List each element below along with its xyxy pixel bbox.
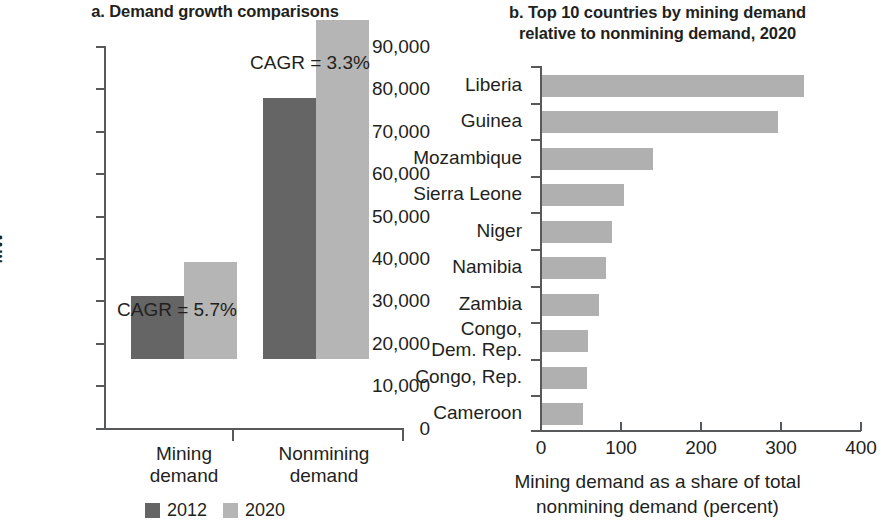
category-label-line: Sierra Leone: [413, 184, 522, 205]
panel-a-y-tick-label: 0: [338, 418, 430, 440]
panel-b-x-tick: [780, 422, 782, 431]
panel-a-demand-growth: a. Demand growth comparisons MW 0 10,000…: [0, 0, 430, 529]
hbar-zambia: [542, 294, 599, 316]
panel-a-y-axis-line: [104, 46, 106, 430]
category-label-zambia: Zambia: [459, 294, 522, 315]
panel-a-x-tick: [232, 430, 234, 441]
panel-a-y-tick: [96, 428, 105, 430]
panel-b-y-tick: [531, 395, 541, 397]
panel-b-x-tick: [540, 422, 542, 431]
category-label-line: Mining: [124, 443, 244, 465]
category-label-liberia: Liberia: [465, 75, 522, 96]
panel-b-x-axis-label-line: Mining demand as a share of total: [430, 470, 885, 495]
category-label-congo-dem-rep: Congo, Dem. Rep.: [431, 319, 522, 361]
category-label-congo-rep: Congo, Rep.: [415, 367, 522, 388]
hbar-cameroon: [542, 403, 583, 425]
category-label-line: Cameroon: [433, 403, 522, 424]
panel-a-y-tick: [96, 385, 105, 387]
hbar-mozambique: [542, 148, 653, 170]
panel-a-y-tick: [96, 173, 105, 175]
legend-label-2020: 2020: [245, 500, 285, 521]
panel-a-plot-area: MW 0 10,000 20,000 30,000 40,000 50,000 …: [0, 0, 430, 460]
panel-a-y-tick: [96, 216, 105, 218]
category-label-namibia: Namibia: [452, 257, 522, 278]
bar-nonmining-2012: [263, 98, 316, 359]
hbar-liberia: [542, 75, 804, 97]
panel-a-x-tick: [402, 430, 404, 441]
panel-b-y-tick: [531, 139, 541, 141]
panel-b-x-tick-label: 300: [765, 437, 797, 459]
hbar-guinea: [542, 111, 778, 133]
category-label-sierra-leone: Sierra Leone: [413, 184, 522, 205]
panel-b-y-tick: [531, 66, 541, 68]
panel-b-x-tick: [700, 422, 702, 431]
hbar-namibia: [542, 257, 606, 279]
hbar-sierra-leone: [542, 184, 624, 206]
panel-b-x-tick-label: 200: [685, 437, 717, 459]
panel-b-y-tick: [531, 103, 541, 105]
category-label-line: Dem. Rep.: [431, 340, 522, 361]
category-label-mining: Mining demand: [124, 443, 244, 488]
panel-b-x-axis-label: Mining demand as a share of total nonmin…: [430, 470, 885, 519]
hbar-congo-dem-rep: [542, 330, 588, 352]
hbar-niger: [542, 221, 612, 243]
legend-swatch-icon: [223, 503, 238, 518]
panel-b-x-tick: [620, 422, 622, 431]
legend-item-2020: 2020: [223, 500, 285, 521]
panel-b-plot-area: Liberia Guinea Mozambique Sierra Leone N…: [430, 0, 885, 470]
category-label-niger: Niger: [477, 221, 522, 242]
category-label-line: Guinea: [461, 111, 522, 132]
panel-b-y-tick: [531, 322, 541, 324]
category-label-mozambique: Mozambique: [413, 148, 522, 169]
panel-b-x-tick: [860, 422, 862, 431]
category-label-line: demand: [250, 465, 398, 487]
annotation-cagr-nonmining: CAGR = 3.3%: [250, 52, 370, 74]
panel-b-x-tick-label: 400: [845, 437, 877, 459]
legend-swatch-icon: [145, 503, 160, 518]
category-label-line: Namibia: [452, 257, 522, 278]
category-label-line: Zambia: [459, 294, 522, 315]
panel-a-y-tick: [96, 258, 105, 260]
panel-a-y-tick: [96, 131, 105, 133]
category-label-line: Liberia: [465, 75, 522, 96]
category-label-line: Congo,: [431, 319, 522, 340]
legend-item-2012: 2012: [145, 500, 207, 521]
panel-b-x-tick-label: 0: [536, 437, 547, 459]
panel-a-legend: 2012 2020: [0, 500, 430, 521]
category-label-line: Mozambique: [413, 148, 522, 169]
panel-b-y-tick: [531, 176, 541, 178]
panel-a-y-tick: [96, 46, 105, 48]
panel-b-x-axis-label-line: nonmining demand (percent): [430, 495, 885, 520]
hbar-congo-rep: [542, 367, 587, 389]
annotation-cagr-mining: CAGR = 5.7%: [117, 299, 237, 321]
panel-b-y-tick: [531, 286, 541, 288]
category-label-line: Niger: [477, 221, 522, 242]
two-panel-figure: a. Demand growth comparisons MW 0 10,000…: [0, 0, 885, 529]
category-label-guinea: Guinea: [461, 111, 522, 132]
category-label-line: demand: [124, 465, 244, 487]
panel-a-y-axis-label: MW: [0, 233, 7, 264]
panel-a-y-tick: [96, 88, 105, 90]
panel-a-y-tick: [96, 300, 105, 302]
category-label-cameroon: Cameroon: [433, 403, 522, 424]
legend-label-2012: 2012: [167, 500, 207, 521]
panel-b-y-tick: [531, 212, 541, 214]
category-label-line: Congo, Rep.: [415, 367, 522, 388]
panel-a-y-tick: [96, 343, 105, 345]
panel-b-y-tick: [531, 249, 541, 251]
panel-b-top-countries: b. Top 10 countries by mining demand rel…: [430, 0, 885, 529]
panel-b-y-tick: [531, 359, 541, 361]
panel-b-x-tick-label: 100: [605, 437, 637, 459]
category-label-line: Nonmining: [250, 443, 398, 465]
category-label-nonmining: Nonmining demand: [250, 443, 398, 488]
